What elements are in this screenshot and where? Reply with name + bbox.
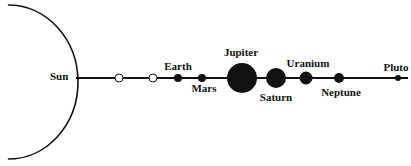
venus-circle <box>149 74 158 83</box>
sun-arc <box>0 0 92 166</box>
mars-circle <box>198 74 206 82</box>
earth-label: Earth <box>164 60 192 72</box>
mars-label: Mars <box>191 82 216 94</box>
uranium-label: Uranium <box>287 57 330 69</box>
neptune-label: Neptune <box>321 86 361 98</box>
earth-circle <box>174 74 182 82</box>
neptune-circle <box>334 73 344 83</box>
pluto-circle <box>395 75 401 81</box>
solar-system-diagram: Sun Earth Mars Jupiter Saturn Uranium Ne… <box>0 0 411 166</box>
saturn-circle <box>266 68 286 88</box>
jupiter-label: Jupiter <box>224 46 258 58</box>
uranium-circle <box>300 72 313 85</box>
saturn-label: Saturn <box>260 91 292 103</box>
jupiter-circle <box>227 63 257 93</box>
mercury-circle <box>115 74 124 83</box>
sun-label: Sun <box>50 70 68 82</box>
pluto-label: Pluto <box>383 61 408 73</box>
